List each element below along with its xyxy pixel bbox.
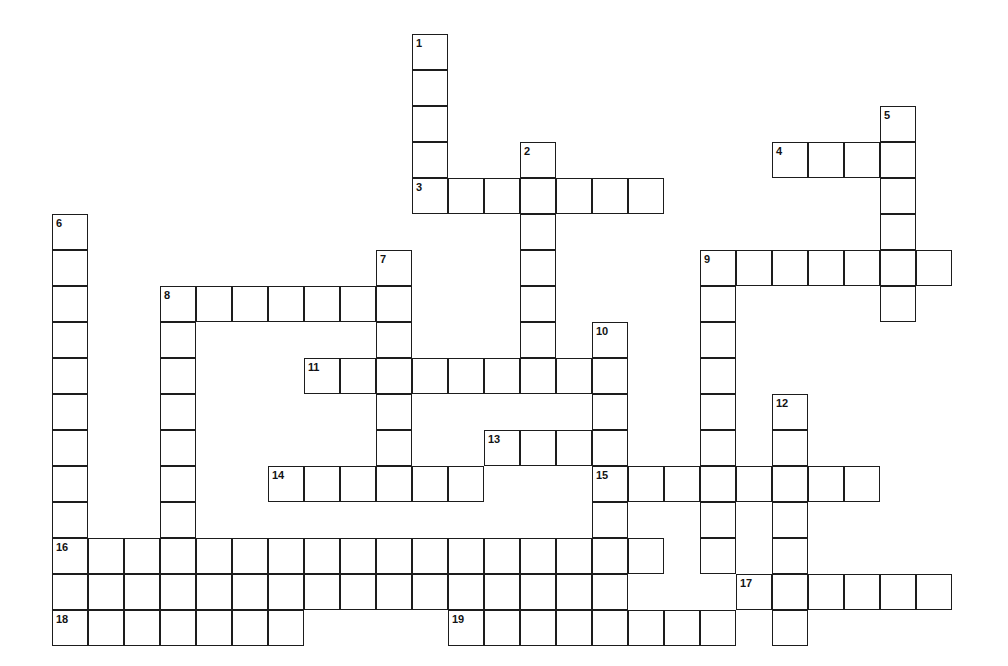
crossword-cell[interactable] (196, 538, 232, 574)
crossword-cell[interactable] (52, 574, 88, 610)
crossword-cell[interactable] (448, 178, 484, 214)
crossword-cell[interactable] (52, 394, 88, 430)
crossword-cell[interactable] (844, 574, 880, 610)
crossword-cell[interactable] (700, 286, 736, 322)
crossword-cell[interactable] (88, 574, 124, 610)
crossword-cell[interactable] (484, 574, 520, 610)
crossword-cell[interactable] (160, 502, 196, 538)
crossword-cell[interactable] (304, 358, 340, 394)
crossword-cell[interactable] (304, 574, 340, 610)
crossword-cell[interactable] (736, 466, 772, 502)
crossword-cell[interactable] (88, 538, 124, 574)
crossword-cell[interactable] (268, 574, 304, 610)
crossword-cell[interactable] (700, 466, 736, 502)
crossword-cell[interactable] (376, 286, 412, 322)
crossword-cell[interactable] (700, 430, 736, 466)
crossword-cell[interactable] (772, 250, 808, 286)
crossword-cell[interactable] (448, 466, 484, 502)
crossword-cell[interactable] (628, 178, 664, 214)
crossword-cell[interactable] (880, 106, 916, 142)
crossword-cell[interactable] (772, 142, 808, 178)
crossword-cell[interactable] (448, 574, 484, 610)
crossword-cell[interactable] (160, 286, 196, 322)
crossword-cell[interactable] (376, 466, 412, 502)
crossword-cell[interactable] (376, 574, 412, 610)
crossword-cell[interactable] (880, 142, 916, 178)
crossword-cell[interactable] (808, 466, 844, 502)
crossword-cell[interactable] (844, 142, 880, 178)
crossword-cell[interactable] (232, 286, 268, 322)
crossword-cell[interactable] (52, 538, 88, 574)
crossword-cell[interactable] (556, 610, 592, 646)
crossword-cell[interactable] (880, 250, 916, 286)
crossword-cell[interactable] (916, 250, 952, 286)
crossword-cell[interactable] (592, 430, 628, 466)
crossword-cell[interactable] (808, 574, 844, 610)
crossword-cell[interactable] (484, 538, 520, 574)
crossword-cell[interactable] (304, 286, 340, 322)
crossword-cell[interactable] (196, 574, 232, 610)
crossword-cell[interactable] (916, 574, 952, 610)
crossword-cell[interactable] (376, 394, 412, 430)
crossword-cell[interactable] (484, 610, 520, 646)
crossword-cell[interactable] (592, 358, 628, 394)
crossword-cell[interactable] (736, 250, 772, 286)
crossword-cell[interactable] (124, 574, 160, 610)
crossword-cell[interactable] (664, 610, 700, 646)
crossword-cell[interactable] (736, 574, 772, 610)
crossword-cell[interactable] (628, 466, 664, 502)
crossword-cell[interactable] (520, 214, 556, 250)
crossword-cell[interactable] (880, 178, 916, 214)
crossword-cell[interactable] (196, 286, 232, 322)
crossword-cell[interactable] (556, 574, 592, 610)
crossword-cell[interactable] (376, 250, 412, 286)
crossword-cell[interactable] (556, 538, 592, 574)
crossword-cell[interactable] (268, 538, 304, 574)
crossword-cell[interactable] (160, 322, 196, 358)
crossword-cell[interactable] (232, 610, 268, 646)
crossword-cell[interactable] (772, 538, 808, 574)
crossword-cell[interactable] (376, 358, 412, 394)
crossword-cell[interactable] (376, 322, 412, 358)
crossword-cell[interactable] (700, 394, 736, 430)
crossword-cell[interactable] (448, 538, 484, 574)
crossword-cell[interactable] (412, 70, 448, 106)
crossword-cell[interactable] (520, 574, 556, 610)
crossword-cell[interactable] (592, 322, 628, 358)
crossword-cell[interactable] (520, 430, 556, 466)
crossword-cell[interactable] (592, 574, 628, 610)
crossword-cell[interactable] (484, 358, 520, 394)
crossword-cell[interactable] (160, 394, 196, 430)
crossword-cell[interactable] (340, 466, 376, 502)
crossword-cell[interactable] (592, 502, 628, 538)
crossword-cell[interactable] (484, 430, 520, 466)
crossword-cell[interactable] (268, 286, 304, 322)
crossword-cell[interactable] (664, 466, 700, 502)
crossword-cell[interactable] (52, 322, 88, 358)
crossword-cell[interactable] (448, 358, 484, 394)
crossword-cell[interactable] (52, 430, 88, 466)
crossword-cell[interactable] (52, 502, 88, 538)
crossword-cell[interactable] (700, 322, 736, 358)
crossword-cell[interactable] (124, 610, 160, 646)
crossword-cell[interactable] (160, 430, 196, 466)
crossword-cell[interactable] (160, 610, 196, 646)
crossword-cell[interactable] (700, 502, 736, 538)
crossword-cell[interactable] (412, 142, 448, 178)
crossword-cell[interactable] (340, 538, 376, 574)
crossword-cell[interactable] (412, 538, 448, 574)
crossword-cell[interactable] (124, 538, 160, 574)
crossword-cell[interactable] (160, 538, 196, 574)
crossword-cell[interactable] (808, 142, 844, 178)
crossword-cell[interactable] (412, 358, 448, 394)
crossword-cell[interactable] (700, 250, 736, 286)
crossword-cell[interactable] (160, 466, 196, 502)
crossword-cell[interactable] (376, 538, 412, 574)
crossword-cell[interactable] (412, 574, 448, 610)
crossword-cell[interactable] (556, 358, 592, 394)
crossword-cell[interactable] (412, 178, 448, 214)
crossword-cell[interactable] (484, 178, 520, 214)
crossword-cell[interactable] (700, 358, 736, 394)
crossword-cell[interactable] (52, 250, 88, 286)
crossword-cell[interactable] (556, 178, 592, 214)
